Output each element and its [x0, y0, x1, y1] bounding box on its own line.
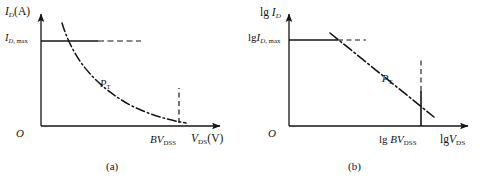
axis-label-y-b: lg ID	[260, 7, 281, 19]
power-curve-label-b: PT	[382, 74, 393, 85]
axis-label-y-a: ID(A)	[5, 6, 30, 18]
figure-container: ID(A) ID, max O BVDSS VDS(V) PT (a)	[0, 0, 496, 185]
plot-a-svg	[0, 0, 248, 185]
panel-caption-a: (a)	[106, 161, 118, 172]
origin-label-a: O	[16, 128, 24, 139]
y-tick-label-b: lgID, max	[248, 32, 281, 43]
axis-label-x-a: VDS(V)	[191, 133, 223, 145]
plot-b-svg	[248, 0, 496, 185]
x-tick-label-a: BVDSS	[150, 134, 176, 145]
panel-b: lg ID lgID, max O lg BVDSS lgVDS PT (b)	[248, 0, 496, 185]
y-tick-label-a: ID, max	[5, 33, 28, 44]
panel-caption-b: (b)	[348, 161, 361, 172]
power-curve-a	[62, 23, 186, 123]
panel-a: ID(A) ID, max O BVDSS VDS(V) PT (a)	[0, 0, 248, 185]
x-tick-label-b: lg BVDSS	[379, 134, 417, 145]
origin-label-b: O	[268, 128, 276, 139]
axis-label-x-b: lgVDS	[440, 134, 465, 146]
power-curve-label-a: PT	[100, 79, 111, 90]
